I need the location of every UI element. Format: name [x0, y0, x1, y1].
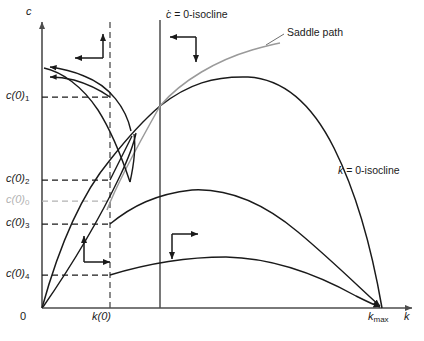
- c00-subscript: 0: [25, 198, 29, 207]
- kdot-overdot: ·: [339, 162, 342, 172]
- kdot-isocline-label: ·k = 0-isocline: [338, 165, 400, 176]
- direction-arrow-upper-left: [75, 34, 103, 58]
- x-axis-label: k: [404, 311, 410, 322]
- kdot-symbol-wrap: ·k: [338, 165, 343, 176]
- trajectory-upper-divergent-2: [50, 77, 110, 97]
- y-tick-c03-label: c(0)3: [6, 217, 29, 230]
- dashed-guides-group: [42, 97, 110, 275]
- cdot-isocline-label: ·c = 0-isocline: [166, 9, 228, 20]
- x-tick-kmax-label: kmax: [368, 311, 389, 324]
- trajectory-c04-convergent: [110, 257, 380, 307]
- c04-subscript: 4: [25, 272, 29, 281]
- c00-base: c(0): [6, 193, 25, 205]
- c02-base: c(0): [6, 172, 25, 184]
- c02-subscript: 2: [25, 177, 29, 186]
- y-tick-c02-label: c(0)2: [6, 173, 29, 186]
- direction-arrow-upper-right: [170, 37, 196, 62]
- kdot-isocline-text: = 0-isocline: [343, 164, 399, 176]
- cdot-isocline-text: = 0-isocline: [171, 8, 227, 20]
- kmax-subscript: max: [374, 315, 389, 324]
- y-tick-c04-label: c(0)4: [6, 268, 29, 281]
- x-tick-k0-label: k(0): [92, 311, 111, 322]
- saddle-path-curve: [107, 43, 280, 210]
- c04-base: c(0): [6, 267, 25, 279]
- c03-base: c(0): [6, 216, 25, 228]
- direction-arrow-lower-left: [84, 236, 110, 262]
- direction-arrow-lower-right: [172, 234, 198, 259]
- y-tick-c00-label: c(0)0: [6, 194, 29, 207]
- saddle-path-label: Saddle path: [287, 27, 343, 38]
- y-axis-label: c: [26, 6, 32, 17]
- c01-subscript: 1: [25, 94, 29, 103]
- kdot-zero-isocline: [42, 77, 382, 308]
- c01-base: c(0): [6, 89, 25, 101]
- c03-subscript: 3: [25, 221, 29, 230]
- cdot-symbol-wrap: ·c: [166, 9, 171, 20]
- y-tick-c01-label: c(0)1: [6, 90, 29, 103]
- cdot-overdot: ·: [167, 6, 170, 16]
- origin-label: 0: [20, 311, 26, 322]
- trajectory-c03-convergent: [110, 190, 380, 306]
